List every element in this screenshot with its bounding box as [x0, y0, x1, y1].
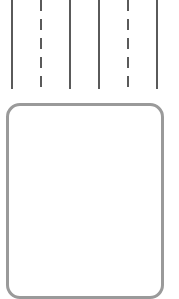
lane-line-5-dashed — [127, 0, 129, 89]
lane-line-1 — [11, 0, 13, 89]
rounded-panel-box[interactable] — [6, 103, 164, 299]
lane-line-3 — [69, 0, 71, 89]
lane-line-6 — [156, 0, 158, 89]
lane-line-2-dashed — [40, 0, 42, 89]
lane-line-4 — [98, 0, 100, 89]
